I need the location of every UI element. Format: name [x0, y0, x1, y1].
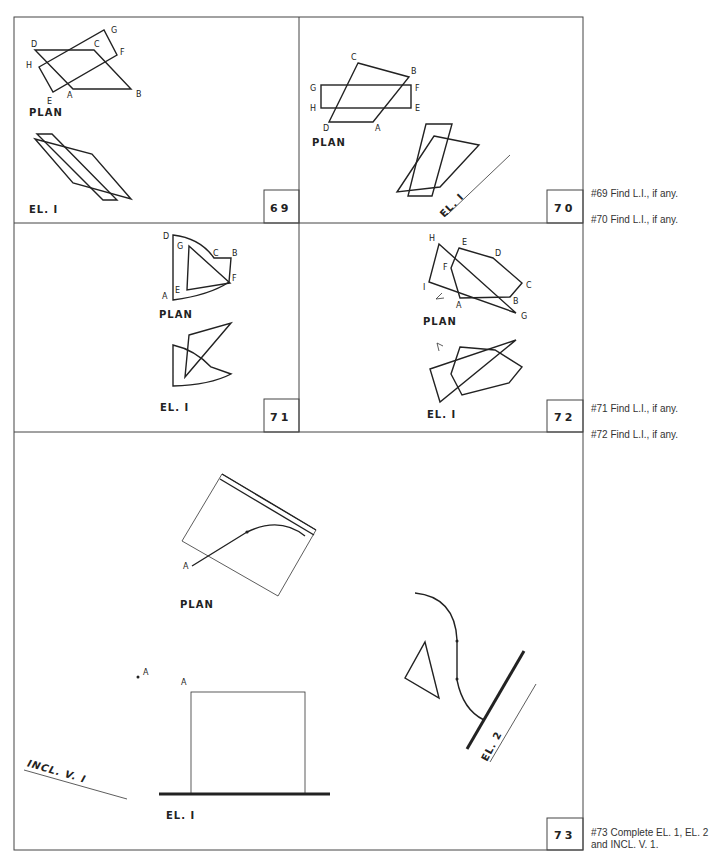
point-label-e: E — [175, 286, 180, 295]
point-label-d: D — [163, 232, 169, 241]
angle-mark — [437, 343, 443, 351]
problem-71-plan: D G C B F E A PLAN — [159, 232, 238, 320]
problem-number: 70 — [554, 202, 575, 215]
view-label-elevation: EL. I — [160, 402, 189, 413]
instruction-71: #71 Find L.I., if any. — [591, 403, 678, 415]
worksheet-frame — [14, 17, 583, 850]
point-label-a-free: A — [143, 668, 149, 677]
triangle — [405, 642, 439, 698]
point-label-a: A — [456, 301, 462, 310]
plane-abcd — [173, 345, 231, 386]
curve-path — [415, 593, 484, 720]
point-label-c: C — [526, 281, 532, 290]
view-label-elevation-2: EL. 2 — [479, 729, 504, 763]
point-label-a: A — [67, 91, 73, 100]
point-marker — [456, 678, 459, 681]
instruction-73-line-1: #73 Complete EL. 1, EL. 2 — [591, 827, 708, 839]
view-label-plan: PLAN — [180, 599, 214, 610]
point-label-e: E — [462, 238, 467, 247]
problem-69: D C G F H E A B PLAN EL. I 69 — [26, 26, 299, 223]
point-label-g: G — [111, 26, 117, 35]
problem-73-elevation: A A EL. I — [137, 668, 331, 821]
point-label-f: F — [120, 48, 125, 57]
plane-abcdef — [451, 248, 522, 298]
plane-2 — [35, 139, 131, 199]
point-label-b: B — [411, 67, 417, 76]
plane-efg — [187, 246, 230, 290]
view-label-plan: PLAN — [312, 137, 346, 148]
instruction-72: #72 Find L.I., if any. — [591, 429, 678, 441]
problem-number: 72 — [554, 411, 575, 424]
problem-71: D G C B F E A PLAN EL. I 71 — [159, 232, 299, 432]
view-label-elevation: EL. I — [438, 191, 466, 219]
point-label-b: B — [513, 297, 519, 306]
problem-number: 73 — [554, 829, 575, 842]
view-label-plan: PLAN — [159, 309, 193, 320]
instruction-73-line-2: and INCL. V. 1. — [591, 839, 658, 851]
point-label-c: C — [213, 249, 219, 258]
problem-71-elevation: EL. I — [160, 323, 231, 413]
point-label-a: A — [162, 292, 168, 301]
plane-abcdef — [451, 347, 522, 395]
problem-69-elevation: EL. I — [29, 134, 131, 215]
edge-thick-inner — [220, 479, 314, 535]
plane-outline — [182, 474, 316, 596]
point-label-b: B — [232, 249, 238, 258]
point-a-marker — [137, 676, 140, 679]
problem-73-inclined-view: INCL. V. I — [24, 758, 127, 799]
view-label-elevation: EL. I — [166, 810, 195, 821]
point-label-b: B — [136, 90, 142, 99]
point-label-a: A — [183, 562, 189, 571]
point-marker — [456, 640, 459, 643]
point-label-e: E — [47, 97, 52, 106]
plane-2 — [397, 136, 479, 192]
edge-thick — [222, 474, 316, 530]
point-label-f: F — [443, 263, 448, 272]
curve-path — [192, 525, 305, 566]
problem-70-elevation: EL. I — [397, 124, 510, 219]
point-label-g: G — [177, 242, 183, 251]
instruction-70: #70 Find L.I., if any. — [591, 214, 678, 226]
problem-number: 69 — [270, 202, 291, 215]
point-marker — [245, 530, 248, 533]
point-label-f: F — [415, 84, 420, 93]
point-label-h: H — [26, 61, 32, 70]
view-label-plan: PLAN — [423, 316, 457, 327]
plane-abcd — [329, 63, 409, 122]
point-label-c: C — [94, 40, 100, 49]
plane-efgh — [321, 85, 411, 108]
problem-73-elevation-2: EL. 2 — [405, 593, 536, 763]
plane-ghi — [429, 244, 516, 313]
point-label-i: I — [423, 283, 425, 292]
worksheet: D C G F H E A B PLAN EL. I 69 C B G F H … — [0, 0, 721, 853]
problem-73: A PLAN A A EL. I INCL. V. I EL. 2 73 — [24, 474, 583, 850]
view-label-inclined: INCL. V. I — [25, 758, 88, 785]
point-label-a: A — [375, 124, 381, 133]
point-label-e: E — [415, 104, 420, 113]
plane-1 — [37, 134, 117, 200]
point-label-d: D — [31, 40, 37, 49]
point-label-g: G — [310, 84, 316, 93]
problem-70: C B G F H E D A PLAN EL. I 70 — [310, 53, 583, 223]
point-label-h: H — [429, 234, 435, 243]
point-label-d: D — [323, 124, 329, 133]
problem-69-plan: D C G F H E A B PLAN — [26, 26, 142, 118]
plane-efgh — [39, 30, 117, 92]
point-label-c: C — [351, 53, 357, 62]
angle-mark — [436, 293, 444, 299]
point-label-f: F — [232, 274, 237, 283]
point-label-a: A — [181, 678, 187, 687]
problem-73-plan: A PLAN — [180, 474, 316, 610]
problem-number: 71 — [270, 411, 291, 424]
view-label-elevation: EL. I — [427, 409, 456, 420]
problem-70-plan: C B G F H E D A PLAN — [310, 53, 420, 148]
plane-1 — [408, 124, 452, 196]
plane-efg — [185, 323, 231, 377]
problem-72: H E D F C I B A G PLAN EL. I 72 — [423, 234, 583, 432]
point-label-d: D — [495, 249, 501, 258]
view-label-plan: PLAN — [29, 107, 63, 118]
problem-72-elevation: EL. I — [427, 340, 522, 420]
instruction-69: #69 Find L.I., if any. — [591, 188, 678, 200]
view-label-elevation: EL. I — [29, 204, 58, 215]
elevation-rectangle — [191, 692, 305, 794]
